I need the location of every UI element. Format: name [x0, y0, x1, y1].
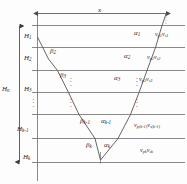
velocity-label-layer1: vp1vs1 [155, 31, 169, 38]
angle-label-alpha2: α2 [124, 53, 130, 60]
ellipsis-right-lower: ... [136, 97, 138, 107]
velocity-label-layer2: vp2vs2 [147, 54, 161, 61]
angle-label-beta-k: βk [86, 142, 92, 149]
total-depth-label: Hn [2, 86, 10, 93]
angle-label-beta3: β3 [60, 72, 66, 79]
thickness-label-h1: H1 [24, 33, 32, 40]
thickness-label-h3: H3 [24, 86, 32, 93]
angle-label-beta2: β2 [50, 48, 56, 55]
offset-dimension-arrow [38, 14, 166, 25]
angle-label-alpha-k1: αk-1 [101, 118, 111, 125]
thickness-label-hk1: Hk-1 [17, 126, 29, 133]
ellipsis-left-column: ... [33, 97, 35, 107]
ellipsis-right: ... [136, 76, 138, 86]
thickness-label-h2: H2 [24, 55, 32, 62]
velocity-label-layer-k1: vp(k-1)vs(k-1) [134, 122, 160, 129]
ellipsis-middle: ... [70, 76, 72, 86]
angle-label-beta-k1: βk-1 [80, 118, 90, 125]
thickness-label-hk: Hk [23, 154, 30, 161]
angle-label-alpha1: α1 [134, 30, 140, 37]
angle-label-alpha-k: αk [104, 142, 110, 149]
figure-canvas: ... ... ... ... ... x Hn H1 H2 H3 Hk-1 H… [0, 0, 187, 184]
offset-label-x: x [98, 7, 101, 14]
velocity-label-layer-k: vpkvsk [140, 147, 153, 154]
velocity-label-layer3: vp3vs3 [139, 76, 153, 83]
angle-label-alpha3: α3 [114, 75, 120, 82]
ellipsis-middle-lower: ... [70, 97, 72, 107]
